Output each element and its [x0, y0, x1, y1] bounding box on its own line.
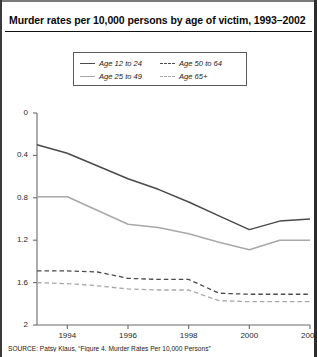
x-tick-label: 1994: [50, 331, 84, 340]
source-note: SOURCE: Patsy Klaus, “Figure 4. Murder R…: [8, 345, 308, 352]
y-tick-label: 0.4: [6, 150, 28, 159]
figure-panel: Murder rates per 10,000 persons by age o…: [0, 0, 317, 357]
x-tick-label: 2002: [293, 331, 317, 340]
series-line-age-12-to-24: [37, 145, 310, 230]
series-line-age-25-to-49: [37, 197, 310, 250]
y-tick-label: 2: [6, 320, 28, 329]
x-tick-label: 1996: [111, 331, 145, 340]
line-chart-plot: [0, 0, 317, 357]
y-tick-label: 0.8: [6, 193, 28, 202]
x-tick-label: 2000: [232, 331, 266, 340]
x-tick-label: 1998: [172, 331, 206, 340]
series-line-age-65: [37, 283, 310, 302]
y-tick-label: 1.6: [6, 278, 28, 287]
y-tick-label: 0: [6, 108, 28, 117]
series-line-age-50-to-64: [37, 271, 310, 294]
y-tick-label: 1.2: [6, 235, 28, 244]
